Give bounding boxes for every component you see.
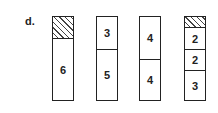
bar-4: 2 2 3 [184,16,206,101]
segment-value: 3 [185,70,205,100]
bar-3: 4 4 [139,16,161,101]
segment-value: 4 [140,59,160,100]
segment-value: 4 [140,17,160,59]
hatched-segment [53,17,73,38]
segment-value: 2 [185,27,205,49]
segment-value: 5 [97,49,117,100]
diagram-label: d. [25,15,35,27]
bar-2: 3 5 [96,16,118,101]
segment-value: 2 [185,49,205,70]
segment-value: 6 [53,38,73,100]
hatched-segment [185,17,205,27]
bar-1: 6 [52,16,74,101]
segment-value: 3 [97,17,117,49]
